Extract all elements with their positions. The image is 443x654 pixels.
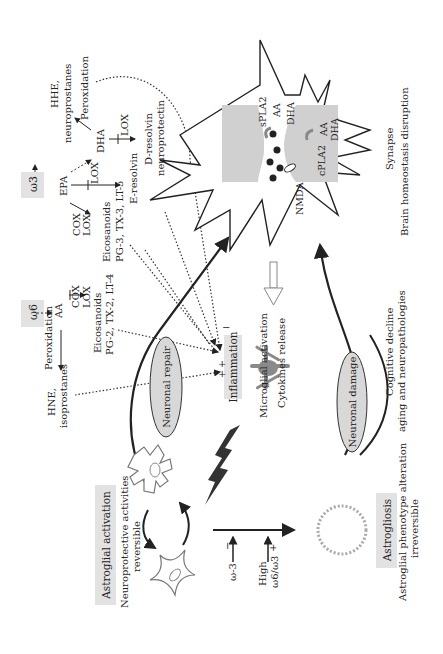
spla2-label: sPLA2 — [257, 97, 268, 127]
cpla2-label: cPLA2 — [316, 145, 327, 176]
minus-sign: − — [222, 322, 230, 333]
reactive-astrocyte-icon — [318, 506, 366, 554]
ratio-plus-sign: + — [267, 544, 278, 552]
nmda-label: NMDA — [294, 182, 305, 215]
aa-right-label: AA — [318, 122, 329, 137]
omega3-label: ω3 — [27, 176, 40, 192]
peroxidation-w6-label: Peroxidation — [43, 306, 54, 370]
omega3-branch: ω3 EPA COX LOX Eicosanoids PG-3, TX-3, L… — [21, 56, 166, 262]
hhe-label: HHE, — [49, 80, 60, 108]
cytokines-release-label: Cytokines release — [276, 318, 287, 408]
pufa-astroglia-diagram: ω3 EPA COX LOX Eicosanoids PG-3, TX-3, L… — [0, 0, 443, 654]
neurotransmitter-dot — [274, 147, 281, 154]
aa-synapse-label: AA — [271, 103, 282, 118]
eicosanoids-w3: Eicosanoids — [101, 202, 112, 262]
dha-synapse-label: DHA — [285, 102, 296, 125]
omega6-label: ω6 — [27, 304, 40, 320]
synapse-title: Synapse — [384, 128, 395, 170]
neuronal-repair-label: Neuronal repair — [161, 346, 172, 428]
neuroprostanes-label: neuroprostanes — [62, 64, 73, 143]
ratio-label: ω6/ω3 — [269, 556, 280, 588]
epa-label: EPA — [58, 175, 69, 196]
dha-label: DHA — [95, 128, 106, 153]
lox-w6-label: LOX — [81, 285, 92, 308]
neurotransmitter-dot — [270, 175, 277, 182]
omega6-branch: ω6 AA Peroxidation COX LOX Eicosanoids P… — [21, 274, 115, 428]
lightning-icon — [205, 425, 240, 505]
isoprostanes-label: isoprostanes — [58, 364, 69, 428]
omega-ratio-axis: − ω-3 + High ω6/ω3 — [213, 530, 294, 588]
eicosanoids-w6-list: PG-2, TX-2, LT-4 — [104, 274, 115, 355]
neuroprotective-label: Neuroprotective activities — [119, 475, 130, 608]
neuroprotectin-label: neuroprotectin — [155, 99, 166, 176]
lox-label-3: LOX — [119, 113, 130, 136]
neurotransmitter-dot — [267, 159, 274, 166]
lox-label-2: LOX — [89, 161, 100, 184]
synapse: sPLA2 AA DHA cPLA2 AA DHA NMDA Synapse B… — [150, 40, 410, 250]
cox-w6-label: COX — [70, 284, 81, 308]
neuronal-damage-label: Neuronal damage — [347, 357, 358, 448]
hne-label: HNE, — [46, 388, 57, 416]
aa-w6-label: AA — [53, 303, 64, 319]
omega3-minus-sign: − — [222, 542, 233, 550]
plus-sign-2: + — [218, 368, 226, 379]
irreversible-label: irreversible — [409, 499, 420, 558]
lox-label-1: LOX — [81, 213, 92, 236]
downward-hollow-arrow — [264, 262, 283, 305]
cognitive-decline-label: Cognitive decline — [384, 308, 395, 396]
inflammation-group: Inflammation − + + Microglial activation… — [218, 312, 290, 418]
inflammation-label: Inflammation — [227, 331, 239, 402]
figure-stage: ω3 EPA COX LOX Eicosanoids PG-3, TX-3, L… — [0, 0, 443, 654]
omega3-axis-label: ω-3 — [227, 563, 238, 581]
eicosanoids-w6: Eicosanoids — [92, 293, 103, 353]
synapse-subtitle: Brain homeostasis disruption — [399, 87, 410, 236]
phenotype-alteration-label: Astroglial phenotype alteration — [397, 442, 408, 602]
peroxidation-w3-label: Peroxidation — [79, 56, 90, 120]
microglial-activation-label: Microglial activation — [258, 312, 269, 418]
neurotransmitter-dot — [277, 165, 284, 172]
d-resolvin-label: D-resolvin — [143, 113, 154, 165]
reversible-label: reversible — [131, 521, 142, 572]
dha-right-label: DHA — [329, 118, 340, 141]
astroglial-activation-label: Astroglial activation — [100, 491, 112, 600]
high-label: High — [257, 561, 268, 586]
e-resolvin-label: E-resolvin — [128, 152, 139, 204]
astrogliosis-label: Astrogliosis — [381, 499, 393, 562]
eicosanoids-w3-list: PG-3, TX-3, LT-5 — [114, 181, 125, 262]
aging-label: aging and neuropathologies — [396, 290, 407, 432]
neurotransmitter-dot — [270, 131, 277, 138]
